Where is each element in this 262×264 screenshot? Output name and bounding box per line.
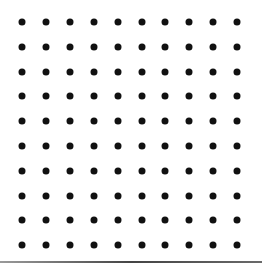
grid-dot xyxy=(234,143,241,150)
grid-dot xyxy=(234,19,241,26)
grid-dot xyxy=(19,242,26,249)
grid-dot xyxy=(19,43,26,50)
grid-dot xyxy=(19,19,26,26)
grid-dot xyxy=(138,118,145,125)
grid-dot xyxy=(66,118,73,125)
grid-dot xyxy=(162,19,169,26)
grid-dot xyxy=(42,143,49,150)
grid-dot xyxy=(66,93,73,100)
grid-dot xyxy=(162,217,169,224)
grid-dot xyxy=(90,118,97,125)
grid-dot xyxy=(210,43,217,50)
grid-dot xyxy=(138,242,145,249)
grid-dot xyxy=(234,93,241,100)
grid-dot xyxy=(66,19,73,26)
grid-dot xyxy=(162,167,169,174)
grid-dot xyxy=(234,217,241,224)
grid-dot xyxy=(90,19,97,26)
grid-dot xyxy=(90,192,97,199)
grid-dot xyxy=(114,143,121,150)
grid-dot xyxy=(210,167,217,174)
grid-dot xyxy=(210,217,217,224)
grid-dot xyxy=(42,19,49,26)
grid-dot xyxy=(210,242,217,249)
grid-dot xyxy=(114,242,121,249)
grid-dot xyxy=(138,93,145,100)
grid-dot xyxy=(42,167,49,174)
grid-dot xyxy=(162,143,169,150)
grid-dot xyxy=(114,217,121,224)
grid-dot xyxy=(162,242,169,249)
grid-dot xyxy=(186,43,193,50)
grid-dot xyxy=(42,242,49,249)
grid-dot xyxy=(138,43,145,50)
bottom-rule xyxy=(0,261,262,263)
grid-dot xyxy=(90,68,97,75)
grid-dot xyxy=(42,68,49,75)
grid-dot xyxy=(19,68,26,75)
grid-dot xyxy=(19,118,26,125)
grid-dot xyxy=(66,167,73,174)
grid-dot xyxy=(186,192,193,199)
grid-dot xyxy=(138,167,145,174)
grid-dot xyxy=(90,167,97,174)
grid-dot xyxy=(42,93,49,100)
grid-dot xyxy=(114,93,121,100)
grid-dot xyxy=(66,192,73,199)
grid-dot xyxy=(186,19,193,26)
grid-dot xyxy=(90,143,97,150)
grid-dot xyxy=(66,217,73,224)
grid-dot xyxy=(90,43,97,50)
grid-dot xyxy=(90,93,97,100)
grid-dot xyxy=(66,143,73,150)
grid-dot xyxy=(42,118,49,125)
grid-dot xyxy=(42,217,49,224)
grid-dot xyxy=(186,217,193,224)
grid-dot xyxy=(19,143,26,150)
grid-dot xyxy=(138,19,145,26)
grid-dot xyxy=(210,19,217,26)
grid-dot xyxy=(138,217,145,224)
grid-dot xyxy=(138,143,145,150)
grid-dot xyxy=(162,93,169,100)
grid-dot xyxy=(234,68,241,75)
grid-dot xyxy=(162,192,169,199)
grid-dot xyxy=(114,68,121,75)
grid-dot xyxy=(114,19,121,26)
grid-dot xyxy=(66,68,73,75)
grid-dot xyxy=(114,192,121,199)
grid-dot xyxy=(19,192,26,199)
grid-dot xyxy=(90,217,97,224)
grid-dot xyxy=(66,242,73,249)
grid-dot xyxy=(210,118,217,125)
grid-dot xyxy=(162,118,169,125)
grid-dot xyxy=(186,93,193,100)
grid-dot xyxy=(234,242,241,249)
grid-dot xyxy=(114,118,121,125)
grid-dot xyxy=(210,68,217,75)
grid-dot xyxy=(234,43,241,50)
grid-dot xyxy=(210,93,217,100)
grid-dot xyxy=(114,167,121,174)
grid-dot xyxy=(42,43,49,50)
grid-dot xyxy=(186,167,193,174)
grid-dot xyxy=(138,68,145,75)
grid-dot xyxy=(210,143,217,150)
grid-dot xyxy=(90,242,97,249)
grid-dot xyxy=(114,43,121,50)
grid-dot xyxy=(234,118,241,125)
grid-dot xyxy=(186,118,193,125)
grid-dot xyxy=(162,68,169,75)
grid-dot xyxy=(186,68,193,75)
grid-dot xyxy=(19,217,26,224)
grid-dot xyxy=(186,242,193,249)
grid-dot xyxy=(186,143,193,150)
grid-dot xyxy=(234,192,241,199)
grid-dot xyxy=(210,192,217,199)
grid-dot xyxy=(19,167,26,174)
grid-dot xyxy=(19,93,26,100)
grid-dot xyxy=(234,167,241,174)
grid-dot xyxy=(66,43,73,50)
grid-dot xyxy=(162,43,169,50)
dot-grid xyxy=(0,0,262,264)
